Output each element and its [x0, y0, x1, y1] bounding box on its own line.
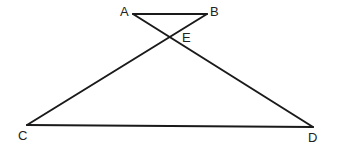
segment-cd	[27, 125, 313, 127]
label-a: A	[120, 4, 129, 19]
label-e: E	[182, 30, 191, 45]
label-d: D	[308, 130, 317, 145]
geometry-diagram: A B E C D	[0, 0, 338, 152]
label-b: B	[210, 4, 219, 19]
label-c: C	[18, 128, 27, 143]
segment-ad	[133, 14, 313, 127]
segment-bc	[27, 14, 207, 125]
